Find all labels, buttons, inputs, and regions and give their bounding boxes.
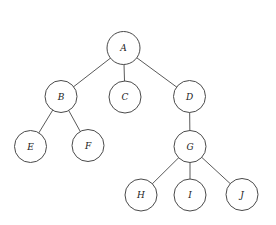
node-g: G bbox=[174, 131, 206, 163]
node-label: F bbox=[84, 141, 92, 151]
node-h: H bbox=[125, 179, 157, 211]
node-label: C bbox=[122, 92, 129, 102]
node-b: B bbox=[45, 81, 77, 113]
node-label: B bbox=[57, 92, 65, 102]
node-f: F bbox=[72, 130, 104, 162]
tree-diagram: ABCDEFGHIJ bbox=[0, 0, 276, 225]
node-label: G bbox=[186, 142, 193, 152]
node-label: H bbox=[136, 190, 145, 200]
node-j: J bbox=[226, 179, 258, 211]
node-e: E bbox=[15, 131, 47, 163]
nodes-group: ABCDEFGHIJ bbox=[15, 32, 259, 212]
node-a: A bbox=[107, 32, 140, 65]
node-label: E bbox=[26, 142, 34, 152]
node-i: I bbox=[174, 179, 206, 211]
node-label: A bbox=[119, 43, 127, 53]
node-c: C bbox=[109, 81, 141, 113]
node-label: I bbox=[187, 190, 192, 200]
edges-group bbox=[31, 48, 243, 195]
node-label: D bbox=[185, 92, 193, 102]
node-d: D bbox=[174, 81, 206, 113]
